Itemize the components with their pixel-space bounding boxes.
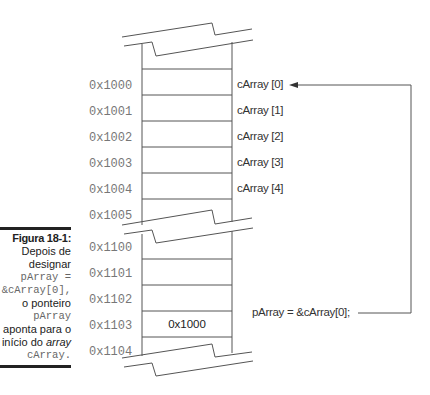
array-element-label: cArray [1] bbox=[237, 104, 283, 116]
arrowhead-icon bbox=[289, 82, 298, 88]
caption-italic-term: array bbox=[46, 336, 71, 348]
array-element-label: cArray [2] bbox=[237, 130, 283, 142]
caption-line-code: cArray. bbox=[0, 349, 71, 362]
bottom-break-lower bbox=[124, 361, 253, 376]
caption-top-rule bbox=[0, 227, 71, 230]
caption-line-code: pArray bbox=[0, 310, 71, 323]
address-label: 0x1100 bbox=[89, 241, 139, 255]
array-element-label: cArray [3] bbox=[237, 156, 283, 168]
top-break-lower bbox=[124, 40, 253, 56]
caption-line: o ponteiro bbox=[0, 297, 71, 310]
address-label: 0x1104 bbox=[89, 345, 139, 359]
address-label: 0x1003 bbox=[89, 157, 139, 171]
array-element-label: cArray [4] bbox=[237, 182, 283, 194]
pointer-arrow-line bbox=[296, 85, 411, 313]
array-element-label: cArray [0] bbox=[237, 78, 283, 90]
address-label: 0x1005 bbox=[89, 209, 139, 223]
caption-line: Depois de bbox=[0, 245, 71, 258]
address-label: 0x1001 bbox=[89, 105, 139, 119]
caption-line: designar bbox=[0, 258, 71, 271]
caption-line: aponta para o bbox=[0, 323, 71, 336]
address-label: 0x1004 bbox=[89, 183, 139, 197]
figure-caption: Figura 18-1: Depois de designar pArray =… bbox=[0, 227, 71, 368]
address-label: 0x1103 bbox=[89, 319, 139, 333]
caption-text: início do bbox=[2, 336, 46, 348]
caption-line-code: pArray = bbox=[0, 271, 71, 284]
address-label: 0x1002 bbox=[89, 131, 139, 145]
address-label: 0x1101 bbox=[89, 267, 139, 281]
pointer-cell-value: 0x1000 bbox=[142, 318, 232, 330]
address-label: 0x1102 bbox=[89, 293, 139, 307]
pointer-assignment-statement: pArray = &cArray[0]; bbox=[252, 306, 350, 318]
middle-break-lower bbox=[124, 228, 253, 243]
figure-label: Figura 18-1: bbox=[0, 232, 71, 245]
top-break-upper bbox=[122, 23, 252, 37]
address-label: 0x1000 bbox=[89, 79, 139, 93]
caption-bottom-rule bbox=[0, 365, 71, 368]
caption-line: início do array bbox=[0, 336, 71, 349]
caption-line-code: &cArray[0], bbox=[0, 284, 71, 297]
